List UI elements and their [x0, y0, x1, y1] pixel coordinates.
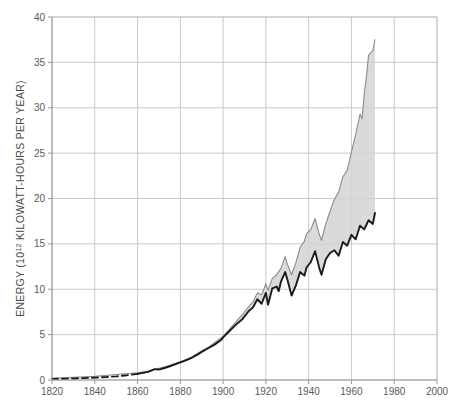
y-tick-label: 15 — [34, 238, 46, 249]
y-tick-label: 30 — [34, 102, 46, 113]
x-tick-label: 1840 — [84, 386, 107, 397]
x-tick-label: 1920 — [255, 386, 278, 397]
y-tick-label: 5 — [39, 329, 45, 340]
series-line — [52, 40, 375, 379]
y-tick-label: 25 — [34, 148, 46, 159]
x-tick-label: 1880 — [169, 386, 192, 397]
x-tick-label: 1900 — [212, 386, 235, 397]
x-tick-label: 1820 — [41, 386, 64, 397]
energy-uncertainty-band — [52, 40, 375, 379]
chart-canvas: 0510152025303540 18201840186018801900192… — [0, 0, 458, 416]
x-tick-label: 1860 — [126, 386, 149, 397]
y-axis-title-text: ENERGY (1012 KILOWATT-HOURS PER YEAR) — [14, 80, 26, 317]
x-tick-label: 1940 — [298, 386, 321, 397]
energy-chart-figure: 0510152025303540 18201840186018801900192… — [0, 0, 458, 416]
y-tick-label: 40 — [34, 12, 46, 23]
x-tick-label: 2000 — [426, 386, 449, 397]
x-tick-label: 1960 — [340, 386, 363, 397]
grid-lines — [52, 17, 437, 380]
y-tick-label: 20 — [34, 193, 46, 204]
series-lines — [52, 40, 375, 379]
y-axis-title: ENERGY (1012 KILOWATT-HOURS PER YEAR) — [14, 80, 26, 317]
x-tick-label: 1980 — [383, 386, 406, 397]
y-axis-ticks: 0510152025303540 — [34, 12, 52, 386]
y-tick-label: 10 — [34, 284, 46, 295]
x-axis-ticks: 1820184018601880190019201940196019802000 — [41, 380, 449, 397]
y-tick-label: 0 — [39, 375, 45, 386]
uncertainty-band — [52, 40, 375, 379]
y-tick-label: 35 — [34, 57, 46, 68]
